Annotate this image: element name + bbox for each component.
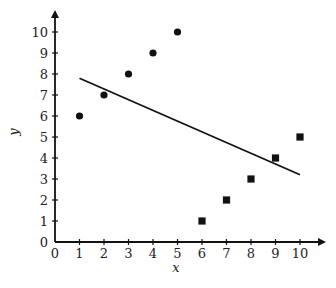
y-tick-label: 2 bbox=[40, 193, 48, 208]
x-tick-label: 5 bbox=[173, 246, 181, 261]
circle-point bbox=[149, 49, 156, 56]
x-axis-label: x bbox=[172, 260, 180, 275]
circle-point bbox=[100, 91, 107, 98]
x-tick-label: 10 bbox=[292, 246, 309, 261]
y-tick-label: 5 bbox=[40, 130, 48, 145]
regression-line-path bbox=[80, 78, 301, 175]
circle-point bbox=[76, 112, 83, 119]
y-tick-label: 0 bbox=[40, 235, 48, 250]
square-point bbox=[272, 154, 279, 161]
y-ticks: 012345678910 bbox=[31, 25, 58, 250]
x-tick-label: 3 bbox=[124, 246, 132, 261]
circle-point bbox=[174, 28, 181, 35]
x-tick-label: 4 bbox=[149, 246, 157, 261]
y-tick-label: 8 bbox=[40, 67, 48, 82]
square-point bbox=[198, 217, 205, 224]
y-axis-label: y bbox=[6, 128, 21, 137]
x-tick-label: 7 bbox=[222, 246, 230, 261]
x-tick-label: 1 bbox=[75, 246, 83, 261]
x-tick-label: 0 bbox=[51, 246, 59, 261]
regression-line bbox=[80, 78, 301, 175]
scatter-chart: 012345678910 012345678910 x y bbox=[0, 0, 336, 288]
y-tick-label: 3 bbox=[40, 172, 48, 187]
x-tick-label: 8 bbox=[247, 246, 255, 261]
y-tick-label: 6 bbox=[40, 109, 48, 124]
y-tick-label: 10 bbox=[31, 25, 48, 40]
square-point bbox=[296, 133, 303, 140]
square-point bbox=[247, 175, 254, 182]
x-tick-label: 6 bbox=[198, 246, 206, 261]
square-point bbox=[223, 196, 230, 203]
x-tick-label: 2 bbox=[100, 246, 108, 261]
y-tick-label: 4 bbox=[40, 151, 48, 166]
y-tick-label: 7 bbox=[40, 88, 48, 103]
x-tick-label: 9 bbox=[271, 246, 279, 261]
circle-point bbox=[125, 70, 132, 77]
y-tick-label: 9 bbox=[40, 46, 48, 61]
y-tick-label: 1 bbox=[40, 214, 48, 229]
